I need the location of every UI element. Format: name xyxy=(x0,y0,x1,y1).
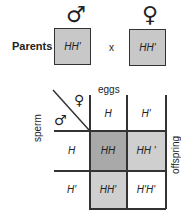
egg-allele-1: H xyxy=(90,96,126,130)
grid-line xyxy=(54,130,166,132)
sperm-allele-2: H' xyxy=(54,171,89,208)
row-header-label: sperm xyxy=(32,114,43,142)
male-parent-genotype: HH' xyxy=(54,28,91,65)
cross-sign: x xyxy=(109,42,114,53)
offspring-cell-hh: HH xyxy=(90,131,126,170)
sperm-allele-1: H xyxy=(54,131,89,170)
grid-line xyxy=(165,95,167,209)
offspring-cell-h-prime-h-prime: H'H' xyxy=(127,171,165,208)
side-label: offspring xyxy=(170,136,181,174)
grid-line xyxy=(126,95,128,209)
grid-line xyxy=(89,95,91,209)
column-header-label: eggs xyxy=(98,84,120,95)
grid-line xyxy=(89,208,166,210)
egg-allele-2: H' xyxy=(127,96,165,130)
parents-label: Parents xyxy=(12,40,52,52)
female-parent-genotype: HH' xyxy=(129,29,166,66)
male-symbol: ♂ xyxy=(66,4,86,26)
corner-female-symbol: ♀ xyxy=(74,92,84,108)
corner-male-symbol: ♂ xyxy=(54,112,67,128)
grid-line xyxy=(54,170,166,172)
offspring-cell-hh-prime-2: HH' xyxy=(90,171,126,208)
female-symbol: ♀ xyxy=(142,4,158,26)
offspring-cell-hh-prime-1: HH ' xyxy=(127,131,165,170)
